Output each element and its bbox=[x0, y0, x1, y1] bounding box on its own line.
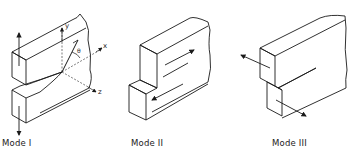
angle-theta-label: θ bbox=[77, 47, 81, 54]
axis-z-label: z bbox=[98, 88, 102, 96]
fracture-modes-diagram bbox=[0, 0, 358, 152]
mode2-label: Mode II bbox=[131, 138, 163, 148]
mode3-specimen bbox=[260, 15, 347, 118]
crack-line bbox=[163, 63, 188, 77]
mode3-label: Mode III bbox=[272, 138, 307, 148]
axis-y-label: y bbox=[65, 22, 69, 30]
mode2-specimen bbox=[129, 18, 211, 121]
axis-x-label: x bbox=[103, 42, 107, 50]
arrow-out-icon bbox=[241, 55, 270, 68]
mode1-label: Mode I bbox=[2, 138, 32, 148]
mode1-specimen bbox=[12, 14, 91, 123]
arrow-right-icon bbox=[165, 50, 194, 65]
